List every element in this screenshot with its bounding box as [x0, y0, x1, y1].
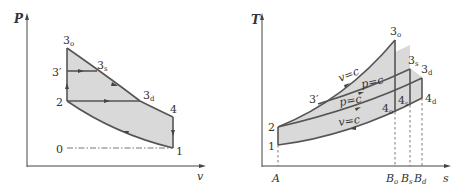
- pv-point-4: 4: [170, 103, 177, 116]
- ts-point-3s: 3s: [408, 54, 419, 68]
- ts-point-3d: 3d: [421, 63, 433, 77]
- pv-shaded-area: [67, 48, 173, 148]
- pv-x-axis-label: v: [197, 170, 204, 183]
- ts-point-3prime: 3′: [309, 93, 319, 106]
- ts-point-3o: 3o: [390, 25, 401, 39]
- pv-y-axis-label: P: [13, 12, 24, 26]
- pv-point-3s: 3s: [97, 59, 108, 73]
- ts-tick-Bd: Bd: [413, 172, 427, 186]
- ts-point-4d: 4d: [425, 92, 437, 106]
- pv-point-3o: 3o: [63, 34, 74, 48]
- pv-point-1: 1: [176, 145, 183, 158]
- thermodynamic-cycle-figure: P v 3o 3′ 3s 3d 2 4 1 0: [0, 0, 465, 193]
- ts-diagram: T s 3o 3s 3d 3′ 2 1 4o 4s 4d v=c p=c p=c…: [251, 13, 451, 186]
- pv-point-3d: 3d: [143, 89, 155, 103]
- ts-point-2: 2: [268, 121, 275, 134]
- ts-x-axis-arrow-icon: [444, 164, 451, 168]
- ts-point-1: 1: [268, 140, 275, 153]
- ts-tick-A: A: [271, 172, 280, 185]
- ts-y-axis-label: T: [251, 13, 261, 27]
- pv-diagram: P v 3o 3′ 3s 3d 2 4 1 0: [13, 12, 206, 183]
- pv-point-0: 0: [56, 143, 63, 156]
- ts-tick-Bs: Bs: [400, 172, 413, 186]
- pv-x-axis-arrow-icon: [199, 164, 206, 168]
- diagram-canvas: P v 3o 3′ 3s 3d 2 4 1 0: [0, 0, 465, 193]
- pv-point-2: 2: [56, 96, 63, 109]
- pv-y-axis-arrow-icon: [25, 13, 29, 20]
- ts-y-axis-arrow-icon: [260, 13, 264, 20]
- pv-point-3prime: 3′: [52, 66, 62, 79]
- ts-x-axis-label: s: [443, 172, 449, 185]
- ts-tick-Bo: Bo: [385, 172, 398, 186]
